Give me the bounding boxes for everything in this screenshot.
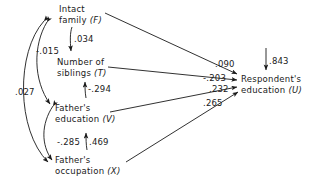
- node-fathers-education: Father's education (V): [55, 103, 116, 124]
- arrow-X-to-V: [86, 133, 87, 150]
- arrow-V-to-T: [85, 82, 86, 98]
- node-intact-family: Intact family (F): [59, 4, 102, 25]
- coef-label-015: -.015: [36, 47, 59, 56]
- coef-label-027: .027: [15, 88, 35, 97]
- coef-label-232: .232: [209, 85, 229, 94]
- arrow-F-to-T: [70, 27, 72, 51]
- node-fathers-occupation-line1: Father's: [55, 155, 121, 166]
- path-diagram: Intact family (F) Number of siblings (T)…: [0, 0, 320, 183]
- node-intact-family-line1: Intact: [59, 4, 102, 15]
- arc-V-X-correlation: [44, 106, 53, 160]
- coef-label-843: .843: [269, 57, 289, 66]
- node-fathers-occupation-line2: occupation (X): [55, 166, 121, 177]
- node-intact-family-line2: family (F): [59, 15, 102, 26]
- arc-F-V-correlation: [37, 22, 50, 104]
- node-fathers-occupation-symbol: (X): [107, 166, 120, 176]
- coef-label-090: .090: [215, 60, 235, 69]
- coef-label-034: .034: [74, 35, 94, 44]
- node-respondents-education: Respondent's education (U): [241, 74, 302, 95]
- node-fathers-education-line2: education (V): [55, 114, 116, 125]
- node-fathers-education-line1: Father's: [55, 103, 116, 114]
- coef-label-265: .265: [203, 99, 223, 108]
- node-respondents-education-line1: Respondent's: [241, 74, 302, 85]
- coef-label-285: -.285: [57, 138, 80, 147]
- node-number-of-siblings-symbol: (T): [94, 68, 107, 78]
- coef-label-203: -.203: [203, 74, 226, 83]
- coef-label-294: -.294: [88, 85, 111, 94]
- node-number-of-siblings-line1: Number of: [57, 57, 107, 68]
- coef-label-469: .469: [89, 138, 109, 147]
- node-intact-family-symbol: (F): [90, 15, 102, 25]
- node-fathers-occupation: Father's occupation (X): [55, 155, 121, 176]
- node-number-of-siblings: Number of siblings (T): [57, 57, 107, 78]
- node-respondents-education-line2: education (U): [241, 85, 302, 96]
- node-respondents-education-symbol: (U): [288, 85, 302, 95]
- node-fathers-education-symbol: (V): [102, 114, 115, 124]
- node-number-of-siblings-line2: siblings (T): [57, 68, 107, 79]
